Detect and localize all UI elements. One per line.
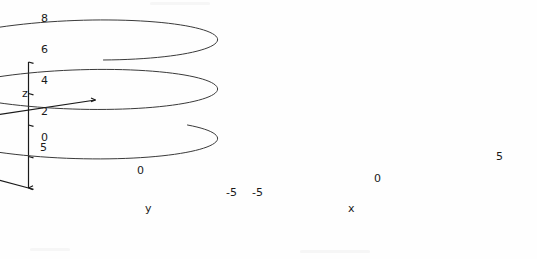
z-tick-8: 8 bbox=[41, 13, 48, 24]
z-axis-label: z bbox=[22, 88, 28, 99]
plot-canvas: z 8 6 4 2 0 y 5 0 -5 x -5 0 5 bbox=[0, 0, 537, 259]
z-tick-2: 2 bbox=[41, 106, 48, 117]
y-axis-label: y bbox=[145, 203, 152, 214]
y-tick-minus5: -5 bbox=[226, 187, 237, 198]
x-axis-label: x bbox=[348, 203, 355, 214]
scan-artifact bbox=[150, 2, 210, 5]
data-series-group bbox=[0, 20, 218, 159]
z-axis-ticks bbox=[29, 62, 34, 189]
y-axis-line bbox=[0, 138, 29, 188]
3d-helix-plot bbox=[0, 0, 537, 259]
x-tick-5: 5 bbox=[496, 151, 503, 162]
z-tick-4: 4 bbox=[41, 75, 48, 86]
x-tick-0: 0 bbox=[374, 173, 381, 184]
x-tick-minus5: -5 bbox=[252, 187, 263, 198]
y-tick-5: 5 bbox=[40, 142, 47, 153]
scan-artifact bbox=[300, 250, 370, 253]
scan-artifact bbox=[30, 248, 70, 251]
helix-curve bbox=[0, 20, 218, 159]
z-tick-6: 6 bbox=[41, 44, 48, 55]
y-tick-0: 0 bbox=[137, 165, 144, 176]
